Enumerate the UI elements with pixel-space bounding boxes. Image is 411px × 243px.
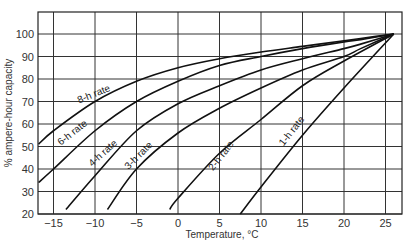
y-tick-label: 30 [22, 186, 34, 198]
y-tick-label: 80 [22, 73, 34, 85]
x-tick-label: −5 [130, 217, 143, 229]
x-tick-label: 20 [338, 217, 350, 229]
y-tick-label: 90 [22, 51, 34, 63]
x-tick-label: 15 [296, 217, 308, 229]
y-tick-label: 50 [22, 141, 34, 153]
x-tick-label: 10 [255, 217, 267, 229]
y-tick-label: 60 [22, 118, 34, 130]
y-tick-labels: 2030405060708090100 [16, 28, 34, 220]
curve-label: 6-h rate [55, 117, 89, 147]
battery-capacity-chart: 2030405060708090100 −15−10−50510152025 8… [0, 0, 411, 243]
curve-labels: 8-h rate6-h rate4-h rate3-h rate2-h rate… [55, 82, 307, 173]
x-tick-label: 0 [175, 217, 181, 229]
curve-2h-rate [170, 34, 394, 210]
y-tick-label: 70 [22, 96, 34, 108]
x-tick-label: 25 [379, 217, 391, 229]
y-tick-label: 40 [22, 163, 34, 175]
x-tick-label: 5 [216, 217, 222, 229]
x-axis-label: Temperature, °C [186, 229, 259, 240]
y-tick-label: 100 [16, 28, 34, 40]
x-tick-labels: −15−10−50510152025 [44, 217, 391, 229]
curve-3h-rate [107, 34, 393, 210]
y-tick-label: 20 [22, 208, 34, 220]
grid [38, 12, 402, 214]
curve-label: 2-h rate [206, 138, 236, 172]
y-axis-label: % ampere-hour capacity [3, 59, 14, 167]
x-tick-label: −10 [86, 217, 105, 229]
x-tick-label: −15 [44, 217, 63, 229]
